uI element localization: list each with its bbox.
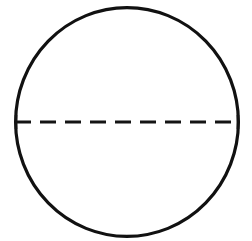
circle-diagram-svg [0,0,252,241]
figure-canvas [0,0,252,241]
